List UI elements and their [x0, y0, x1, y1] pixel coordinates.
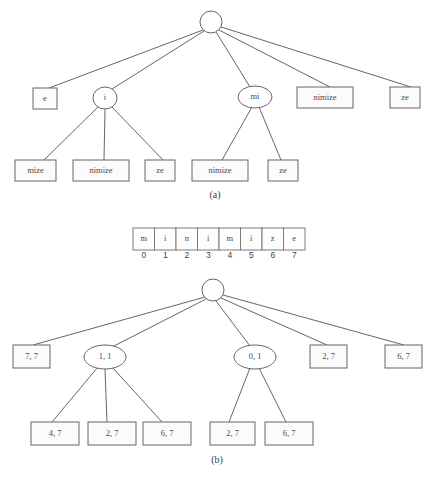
panel-b-node-label: 0, 1 [249, 351, 262, 361]
panel-a-node-label: mi [251, 91, 261, 101]
panel-a-node [200, 11, 222, 33]
string-index-label: 0 [141, 250, 146, 260]
panel-a-node: i [93, 87, 117, 109]
panel-a-node-label: ze [401, 92, 409, 102]
panel-b-node-label: 2, 7 [322, 351, 335, 361]
panel-a-edge [221, 27, 411, 87]
panel-b-node-label: 6, 7 [161, 428, 174, 438]
panel-a-edge [49, 30, 203, 88]
panel-b-edge [216, 301, 250, 346]
panel-a-node: mize [15, 160, 56, 181]
panel-a-edge [259, 107, 281, 160]
panel-a-node: mi [238, 86, 272, 108]
panel-b-node: 4, 7 [31, 422, 79, 445]
panel-a-edge [219, 30, 330, 87]
panel-a-node-label: e [43, 93, 47, 103]
panel-b-edge [223, 295, 404, 345]
panel-b-edge [112, 299, 206, 347]
figure-canvas: eiminimizezemizenimizezenimizeze(a)minim… [0, 0, 439, 477]
panel-a-caption: (a) [209, 189, 220, 201]
panel-b-node: 0, 1 [234, 345, 276, 369]
panel-b-node-label: 6, 7 [283, 428, 296, 438]
panel-a-edge [44, 106, 99, 160]
panel-b-node-label: 6, 7 [397, 351, 410, 361]
panel-a-root-circle [200, 11, 222, 33]
panel-a-edge [104, 109, 105, 160]
panel-b-node: 1, 1 [84, 345, 126, 369]
panel-b-caption: (b) [211, 454, 223, 466]
string-cell-char: z [271, 233, 275, 243]
panel-a-node: ze [145, 160, 175, 181]
panel-a-node-label: nimize [208, 165, 231, 175]
panel-b-node-label: 7, 7 [25, 351, 38, 361]
panel-a-node: e [33, 88, 57, 109]
panel-b-node: 2, 7 [210, 422, 255, 445]
string-cell-char: m [226, 233, 233, 243]
string-index-label: 6 [270, 250, 275, 260]
panel-b-node-label: 4, 7 [49, 428, 62, 438]
panel-b-edge [221, 298, 327, 345]
panel-a-node-label: ze [279, 165, 287, 175]
panel-b-node-label: 2, 7 [226, 428, 239, 438]
panel-a-edge [112, 31, 204, 89]
panel-b-node: 2, 7 [88, 422, 136, 445]
panel-a-node: nimize [192, 160, 248, 181]
string-index-label: 3 [206, 250, 211, 260]
panel-a-node: nimize [73, 160, 129, 181]
panel-b-edge [112, 367, 162, 422]
panel-a-node: ze [390, 87, 420, 108]
panel-a-node: nimize [297, 87, 353, 108]
panel-b-edge [52, 367, 98, 422]
panel-a-node: ze [268, 160, 298, 181]
panel-b-edge [33, 297, 205, 345]
string-index-label: 1 [163, 250, 168, 260]
panel-b-root-circle [202, 279, 224, 301]
panel-b-node-label: 1, 1 [99, 351, 112, 361]
panel-b-edge [229, 368, 250, 422]
panel-a-edge [216, 32, 250, 87]
panel-b-node: 7, 7 [13, 345, 50, 368]
string-index-label: 5 [249, 250, 254, 260]
string-index-label: 2 [184, 250, 189, 260]
string-index-label: 7 [292, 250, 297, 260]
panel-b-node: 6, 7 [265, 422, 313, 445]
panel-a-node-label: ze [156, 165, 164, 175]
string-cell-char: m [140, 233, 147, 243]
panel-b-node: 6, 7 [385, 345, 422, 368]
panel-b-node: 2, 7 [310, 345, 347, 368]
panel-b-node [202, 279, 224, 301]
suffix-tree-figure: eiminimizezemizenimizezenimizeze(a)minim… [0, 0, 439, 477]
panel-a-node-label: nimize [89, 165, 112, 175]
string-cell-char: e [292, 233, 296, 243]
panel-a-node-label: mize [27, 165, 44, 175]
panel-b-node-label: 2, 7 [106, 428, 119, 438]
panel-a-node-label: nimize [313, 92, 336, 102]
panel-a-edge [111, 106, 163, 160]
panel-b-edge [259, 368, 286, 422]
panel-b-node: 6, 7 [143, 422, 191, 445]
panel-a-edge [222, 107, 252, 160]
panel-b-edge [105, 369, 107, 422]
string-index-label: 4 [227, 250, 232, 260]
